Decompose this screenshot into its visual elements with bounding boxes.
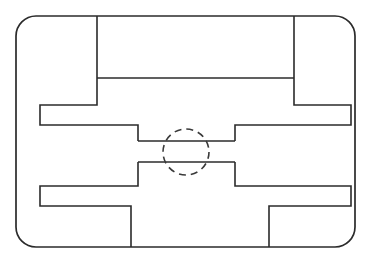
diagram-root — [0, 0, 371, 261]
center-dashed-circle — [163, 129, 209, 175]
technical-line-diagram — [0, 0, 371, 261]
bottom-right-channel-path — [235, 162, 351, 247]
outer-border-rect — [16, 16, 355, 247]
bottom-left-channel-path — [40, 162, 138, 247]
